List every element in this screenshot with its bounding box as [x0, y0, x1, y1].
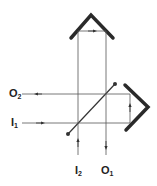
label-i1: I1 — [11, 117, 18, 129]
label-o1: O1 — [101, 165, 113, 177]
label-i2: I2 — [75, 165, 82, 177]
top-roof-mirror — [71, 15, 113, 38]
beam-splitter — [68, 84, 115, 134]
optical-diagram — [0, 0, 157, 186]
label-o2: O2 — [9, 88, 21, 100]
